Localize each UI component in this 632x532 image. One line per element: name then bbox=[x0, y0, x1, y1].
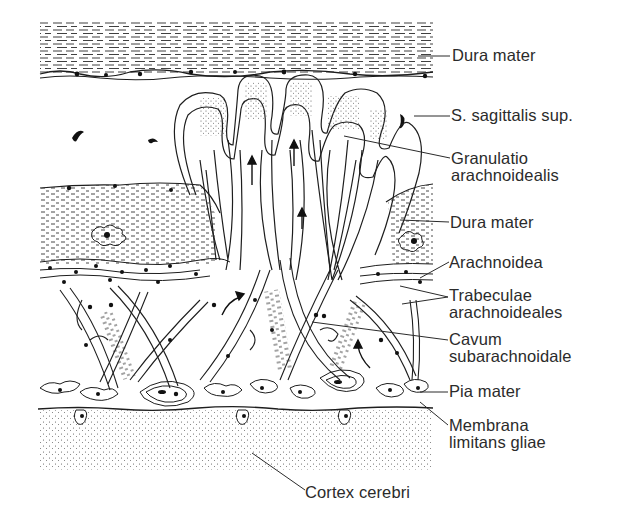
label-dura-mater-mid: Dura mater bbox=[450, 214, 534, 231]
label-pia-mater: Pia mater bbox=[449, 383, 521, 400]
label-arachnoidea: Arachnoidea bbox=[449, 254, 543, 271]
label-cavum-subarachnoidale: Cavum subarachnoidale bbox=[449, 331, 572, 365]
label-sinus-sagittalis: S. sagittalis sup. bbox=[451, 107, 573, 124]
pia-mater-layer bbox=[40, 370, 428, 406]
label-membrana-limitans-gliae: Membrana limitans gliae bbox=[449, 417, 546, 451]
label-granulatio-arachnoidealis: Granulatio arachnoidealis bbox=[451, 150, 559, 184]
cortex-cerebri-layer bbox=[38, 407, 433, 470]
label-dura-mater-top: Dura mater bbox=[452, 47, 536, 64]
dura-mater-mid-layer bbox=[40, 183, 433, 265]
dura-mater-top-layer bbox=[40, 22, 433, 80]
trabeculae-arachnoideales bbox=[60, 258, 420, 390]
label-trabeculae: Trabeculae arachnoideales bbox=[449, 287, 562, 321]
label-cortex-cerebri: Cortex cerebri bbox=[305, 484, 410, 501]
